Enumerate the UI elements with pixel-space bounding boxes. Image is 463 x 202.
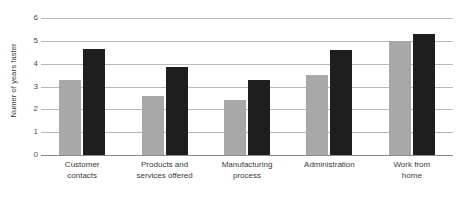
- bar: [413, 34, 435, 155]
- x-tick-label-line: Manufacturing: [208, 160, 286, 171]
- x-tick-label-line: home: [373, 171, 451, 182]
- bar: [166, 67, 188, 155]
- x-tick-label-line: Products and: [125, 160, 203, 171]
- x-axis-tick-labels: CustomercontactsProducts andservices off…: [41, 160, 453, 198]
- x-tick-label-line: Administration: [290, 160, 368, 171]
- axis-baseline: [41, 155, 453, 156]
- x-tick-label: Work fromhome: [371, 160, 453, 198]
- bar: [389, 41, 411, 155]
- bar: [330, 50, 352, 155]
- bar-group: [371, 18, 453, 155]
- bar: [59, 80, 81, 155]
- bar: [224, 100, 246, 155]
- y-tick-label: 5: [34, 37, 38, 45]
- x-tick-label-line: services offered: [125, 171, 203, 182]
- bar: [142, 96, 164, 155]
- x-tick-label: Administration: [288, 160, 370, 198]
- bar: [83, 49, 105, 155]
- y-tick-label: 4: [34, 60, 38, 68]
- bar-chart: Numer of years faster 0123456 Customerco…: [0, 0, 463, 202]
- y-axis-title-text: Numer of years faster: [9, 43, 18, 117]
- x-tick-label: Customercontacts: [41, 160, 123, 198]
- bar: [248, 80, 270, 155]
- bar-group: [41, 18, 123, 155]
- bar-group: [206, 18, 288, 155]
- x-tick-label: Manufacturingprocess: [206, 160, 288, 198]
- x-tick-label-line: Work from: [373, 160, 451, 171]
- x-tick-label: Products andservices offered: [123, 160, 205, 198]
- x-tick-label-line: Customer: [43, 160, 121, 171]
- bar-group: [288, 18, 370, 155]
- y-tick-label: 0: [34, 151, 38, 159]
- bar: [306, 75, 328, 155]
- y-tick-label: 6: [34, 14, 38, 22]
- y-tick-label: 3: [34, 83, 38, 91]
- x-tick-label-line: process: [208, 171, 286, 182]
- y-axis-title: Numer of years faster: [2, 0, 24, 160]
- x-tick-label-line: contacts: [43, 171, 121, 182]
- y-tick-label: 2: [34, 105, 38, 113]
- y-tick-label: 1: [34, 128, 38, 136]
- bar-group: [123, 18, 205, 155]
- bars-layer: [41, 18, 453, 155]
- y-axis-tick-labels: 0123456: [24, 0, 38, 160]
